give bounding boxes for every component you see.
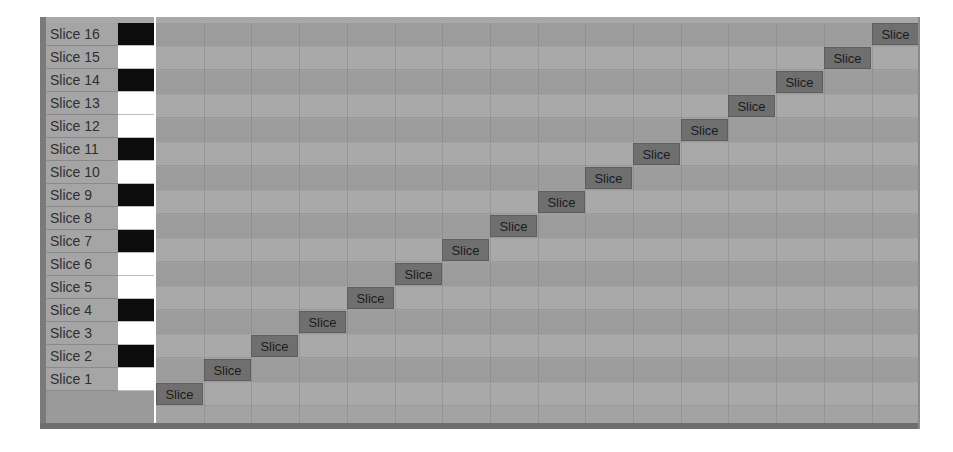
slice-clip[interactable]: Slice <box>347 287 394 309</box>
black-key[interactable] <box>118 23 154 46</box>
slice-label[interactable]: Slice 15 <box>46 46 118 69</box>
grid-column-line <box>585 23 586 423</box>
grid-column-line <box>728 23 729 423</box>
slice-label[interactable]: Slice 11 <box>46 138 118 161</box>
slice-clip[interactable]: Slice <box>251 335 298 357</box>
grid-column-line <box>251 23 252 423</box>
piano-key-column <box>118 23 154 391</box>
grid-column-line <box>681 23 682 423</box>
slice-label[interactable]: Slice 4 <box>46 299 118 322</box>
slice-clip[interactable]: Slice <box>824 47 871 69</box>
slice-label[interactable]: Slice 8 <box>46 207 118 230</box>
grid-column-line <box>347 23 348 423</box>
white-key[interactable] <box>118 253 154 276</box>
slice-clip[interactable]: Slice <box>156 383 203 405</box>
slice-clip[interactable]: Slice <box>585 167 632 189</box>
black-key[interactable] <box>118 230 154 253</box>
slice-label[interactable]: Slice 6 <box>46 253 118 276</box>
slice-clip[interactable]: Slice <box>299 311 346 333</box>
slice-piano-roll-editor: Slice 16Slice 15Slice 14Slice 13Slice 12… <box>40 17 920 429</box>
white-key[interactable] <box>118 92 154 115</box>
slice-label[interactable]: Slice 14 <box>46 69 118 92</box>
white-key[interactable] <box>118 368 154 391</box>
grid-column-line <box>442 23 443 423</box>
slice-label[interactable]: Slice 12 <box>46 115 118 138</box>
slice-clip[interactable]: Slice <box>728 95 775 117</box>
right-edge <box>918 17 920 429</box>
slice-label[interactable]: Slice 3 <box>46 322 118 345</box>
black-key[interactable] <box>118 345 154 368</box>
grid-column-line <box>824 23 825 423</box>
slice-clip[interactable]: Slice <box>872 23 919 45</box>
slice-label[interactable]: Slice 16 <box>46 23 118 46</box>
grid-column-line <box>538 23 539 423</box>
slice-label[interactable]: Slice 10 <box>46 161 118 184</box>
white-key[interactable] <box>118 115 154 138</box>
slice-clip[interactable]: Slice <box>633 143 680 165</box>
slice-label[interactable]: Slice 13 <box>46 92 118 115</box>
black-key[interactable] <box>118 69 154 92</box>
slice-label[interactable]: Slice 9 <box>46 184 118 207</box>
slice-label[interactable]: Slice 5 <box>46 276 118 299</box>
grid-column-line <box>299 23 300 423</box>
slice-clip[interactable]: Slice <box>681 119 728 141</box>
white-key[interactable] <box>118 322 154 345</box>
slice-label[interactable]: Slice 7 <box>46 230 118 253</box>
white-key[interactable] <box>118 276 154 299</box>
grid-column-line <box>395 23 396 423</box>
slice-clip[interactable]: Slice <box>490 215 537 237</box>
bottom-border <box>40 423 920 429</box>
slice-label[interactable]: Slice 2 <box>46 345 118 368</box>
black-key[interactable] <box>118 138 154 161</box>
note-grid[interactable]: SliceSliceSliceSliceSliceSliceSliceSlice… <box>156 23 920 423</box>
slice-clip[interactable]: Slice <box>776 71 823 93</box>
white-key[interactable] <box>118 46 154 69</box>
slice-clip[interactable]: Slice <box>204 359 251 381</box>
grid-column-line <box>633 23 634 423</box>
slice-clip[interactable]: Slice <box>538 191 585 213</box>
slice-clip[interactable]: Slice <box>395 263 442 285</box>
slice-clip[interactable]: Slice <box>442 239 489 261</box>
slice-label[interactable]: Slice 1 <box>46 368 118 391</box>
black-key[interactable] <box>118 299 154 322</box>
grid-column-line <box>872 23 873 423</box>
white-key[interactable] <box>118 161 154 184</box>
white-key[interactable] <box>118 207 154 230</box>
slice-label-column: Slice 16Slice 15Slice 14Slice 13Slice 12… <box>46 23 118 391</box>
black-key[interactable] <box>118 184 154 207</box>
